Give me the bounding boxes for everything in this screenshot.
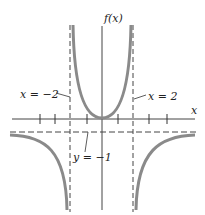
curve-right-branch <box>136 135 195 210</box>
horizontal-asymptote-label: y = −1 <box>72 151 112 164</box>
leader-right <box>134 95 146 99</box>
left-asymptote-label: x = −2 <box>20 88 59 101</box>
leader-y <box>85 132 88 152</box>
x-label: x <box>191 104 198 117</box>
fx-label: f(x) <box>103 12 123 25</box>
curve-left-branch <box>10 135 67 210</box>
graph-svg: f(x) x x = −2 x = 2 y = −1 <box>0 0 205 215</box>
right-asymptote-label: x = 2 <box>148 90 177 103</box>
graph-figure: f(x) x x = −2 x = 2 y = −1 <box>0 0 205 215</box>
